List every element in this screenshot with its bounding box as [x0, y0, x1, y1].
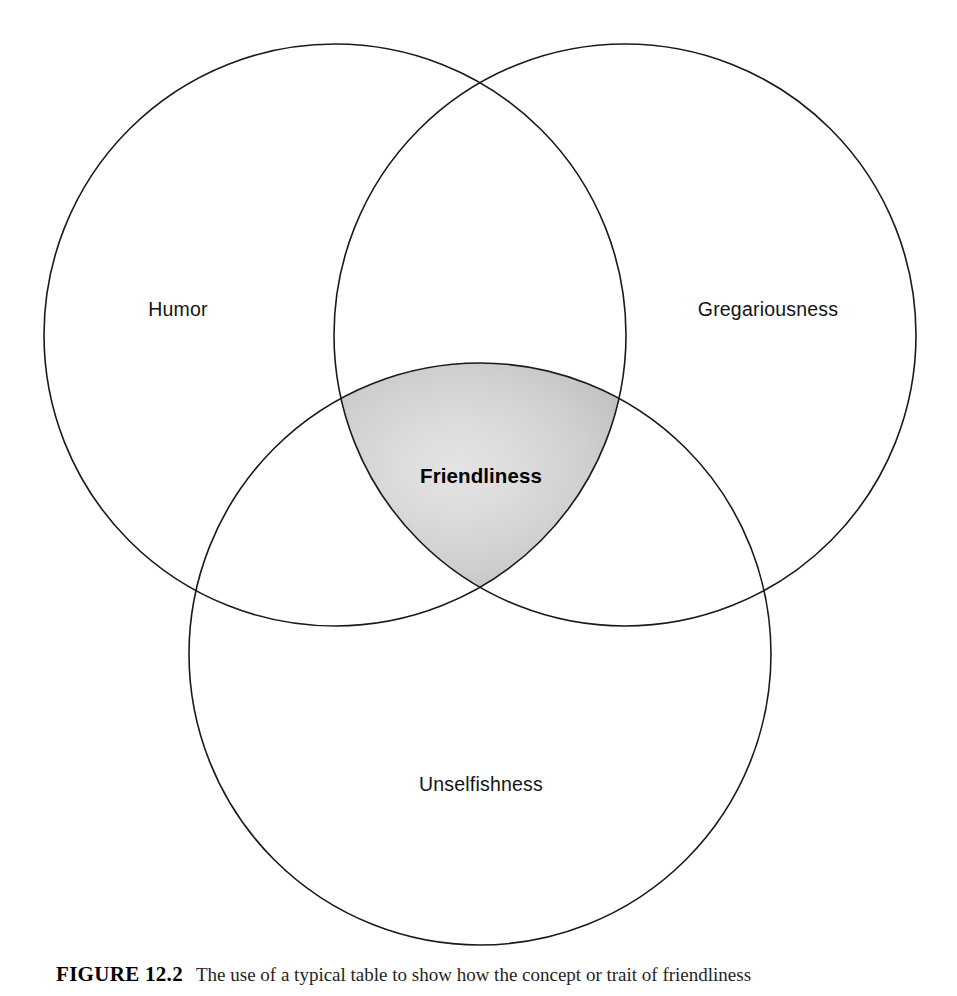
label-friendliness: Friendliness [420, 464, 542, 487]
label-unselfishness: Unselfishness [419, 773, 543, 795]
venn-diagram-canvas: Humor Gregariousness Unselfishness Frien… [0, 0, 957, 996]
caption-figure-number: FIGURE 12.2 [56, 962, 183, 986]
figure-root: Humor Gregariousness Unselfishness Frien… [0, 0, 957, 996]
label-humor: Humor [148, 298, 208, 320]
figure-caption: FIGURE 12.2The use of a typical table to… [0, 962, 957, 996]
caption-description: The use of a typical table to show how t… [196, 964, 751, 985]
label-gregariousness: Gregariousness [698, 298, 839, 320]
